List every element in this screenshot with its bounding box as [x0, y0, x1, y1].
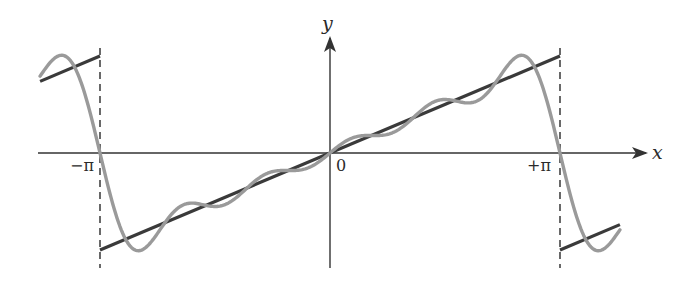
neg-pi-label: −π	[70, 156, 94, 175]
y-axis-label: y	[321, 12, 333, 34]
x-axis-label: x	[652, 141, 663, 163]
origin-label: 0	[336, 156, 346, 175]
fourier-sawtooth-chart: y x 0 −π +π	[0, 0, 692, 282]
pos-pi-label: +π	[527, 156, 551, 175]
